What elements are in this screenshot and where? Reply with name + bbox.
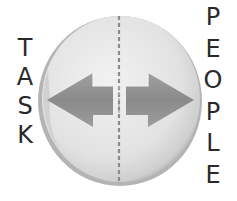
- task-people-diagram: T A S K P E O P L E: [0, 0, 237, 201]
- people-letter: E: [205, 37, 220, 69]
- task-letter: A: [17, 65, 33, 94]
- task-letter: S: [17, 94, 32, 123]
- people-letter: E: [205, 163, 220, 195]
- people-letter: P: [206, 5, 220, 37]
- task-label: T A S K: [12, 36, 38, 152]
- people-letter: L: [206, 131, 219, 163]
- people-letter: O: [204, 68, 223, 100]
- people-label: P E O P L E: [200, 5, 226, 194]
- people-letter: P: [206, 100, 220, 132]
- task-letter: K: [17, 123, 33, 152]
- task-letter: T: [18, 36, 33, 65]
